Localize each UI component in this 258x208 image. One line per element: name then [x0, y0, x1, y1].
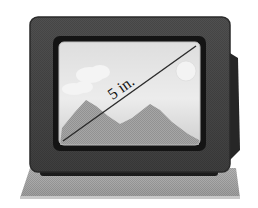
tv-diagram: 5 in.	[0, 0, 258, 208]
screen	[59, 42, 200, 145]
sun-icon	[176, 61, 196, 81]
